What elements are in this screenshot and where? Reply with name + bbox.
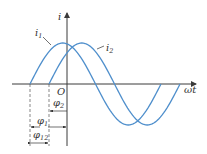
phi1-label: φ1: [37, 115, 48, 128]
phi2-label: φ2: [53, 97, 64, 110]
origin-label: O: [57, 86, 65, 97]
leader-i1: [43, 37, 51, 45]
phase-diagram: i O ωt i1 i2 φ2 φ1 φ12: [0, 0, 207, 154]
leader-i2: [97, 46, 104, 49]
y-axis-label: i: [58, 11, 61, 22]
curve-i2-label: i2: [106, 42, 113, 55]
curve-i1-label: i1: [35, 27, 42, 40]
phi12-label: φ12: [33, 129, 48, 142]
x-axis-label: ωt: [184, 84, 197, 95]
